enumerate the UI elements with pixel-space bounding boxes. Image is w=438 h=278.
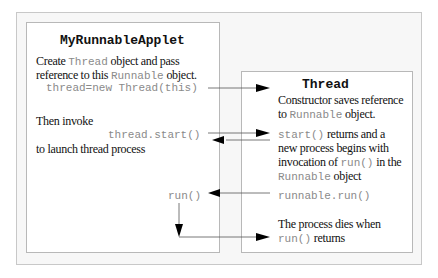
run-call-arrowhead [208,189,220,197]
run-down-arrowhead [175,224,183,237]
start-return-arrowhead [212,136,224,144]
run-returns-arrowhead [256,233,270,241]
constructor-arrowhead [256,84,270,92]
start-arrowhead [256,129,270,137]
flow-arrows [0,0,438,278]
